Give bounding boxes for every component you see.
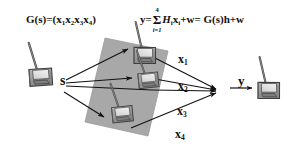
path-label-x4: x4 (175, 128, 185, 142)
source-label: s (60, 74, 65, 88)
formula-left-close-paren: ) (92, 13, 96, 25)
summation-sigma-icon: Σ (153, 15, 162, 25)
path-label-x3: x3 (177, 105, 187, 119)
formula-right-equals: = (146, 13, 152, 25)
formula-right-rhs: G(s)h+w (204, 13, 245, 25)
path-label-x2-sub: 2 (184, 85, 188, 94)
formula-left-lhs: G(s) (26, 13, 46, 25)
summation-lower-limit: i=1 (153, 27, 162, 33)
path-label-x3-sub: 3 (183, 110, 187, 119)
summation-operator: 4Σi=1 (153, 15, 162, 25)
formula-right-equals-2: = (194, 13, 200, 25)
output-label: y (238, 74, 245, 87)
formula-received-signal: y=4Σi=1Hixi+w= G(s)h+w (140, 14, 244, 27)
path-label-x2: x2 (178, 80, 188, 94)
formula-right-coeff: H (162, 13, 171, 25)
signal-flow-figure: G(s)=(x1x2x3x4) y=4Σi=1Hixi+w= G(s)h+w s… (0, 0, 287, 153)
summation-upper-limit: 4 (153, 7, 162, 13)
formula-channel-matrix: G(s)=(x1x2x3x4) (26, 14, 96, 27)
path-label-x1: x1 (178, 53, 188, 67)
path-label-x4-sub: 4 (181, 133, 185, 142)
device-destination (245, 57, 287, 106)
path-label-x1-sub: 1 (184, 58, 188, 67)
device-source (16, 43, 63, 93)
